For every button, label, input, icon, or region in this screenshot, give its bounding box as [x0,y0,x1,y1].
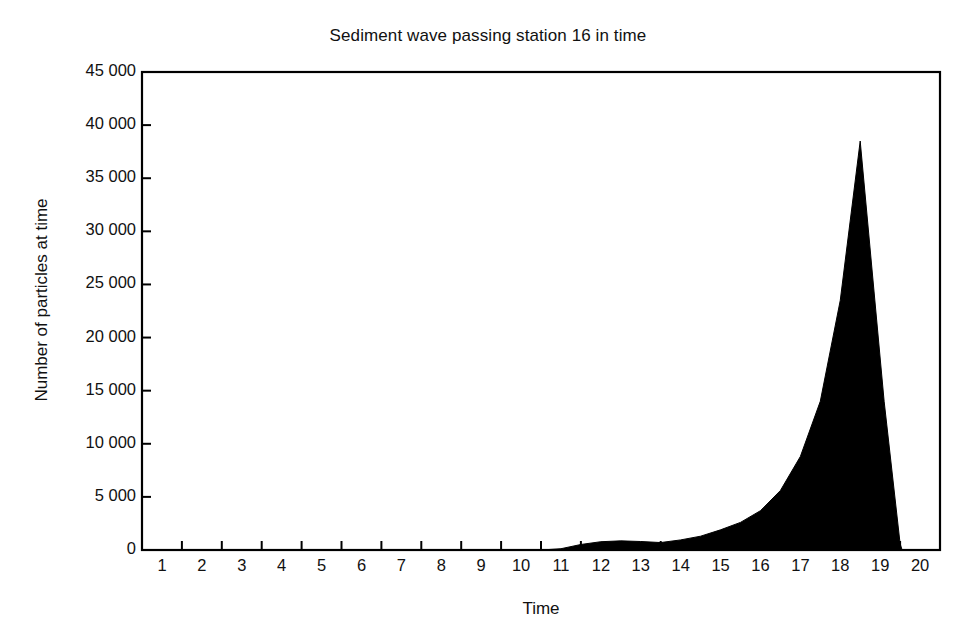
chart-figure: Sediment wave passing station 16 in time… [0,0,976,641]
plot-area [0,0,976,641]
